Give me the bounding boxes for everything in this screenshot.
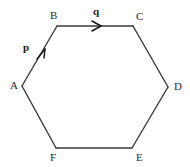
edge-F-A [22,86,56,148]
vertex-label-F: F [50,152,56,163]
hexagon-diagram-svg [0,0,190,167]
vertex-label-A: A [10,80,18,91]
edge-C-D [133,26,168,87]
hexagon-vector-figure: A B C D E F p q [0,0,190,167]
vertex-label-E: E [136,152,143,163]
vector-label-p: p [23,42,29,53]
vertex-label-B: B [50,10,57,21]
edge-D-E [132,87,168,148]
vertex-label-D: D [174,81,182,92]
vertex-label-C: C [136,11,143,22]
vector-p-arrowhead [37,49,45,59]
vector-label-q: q [93,6,99,17]
